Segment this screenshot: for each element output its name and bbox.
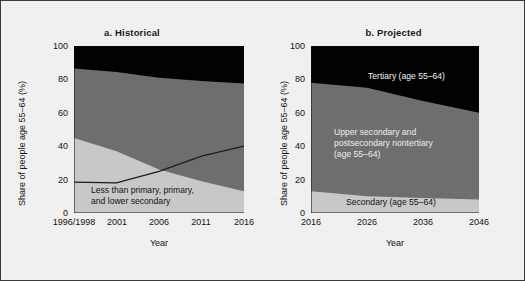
panel-b-x-axis-title: Year	[311, 238, 479, 248]
annotation-line-1: Less than primary, primary,	[91, 185, 194, 195]
panel-projected: b. Projected Share of people age 55–64 (…	[263, 1, 524, 281]
figure-container: a. Historical Share of people age 55–64 …	[0, 0, 525, 281]
panel-b-label-tertiary: Tertiary (age 55–64)	[368, 71, 445, 82]
panel-a-annotation-below-upper-secondary: Less than primary, primary, and lower se…	[91, 185, 194, 207]
panel-a-xtick-2: 2001	[97, 217, 137, 227]
annotation-line-2: and lower secondary	[91, 196, 170, 206]
panel-a-xtick-4: 2011	[181, 217, 221, 227]
panel-historical: a. Historical Share of people age 55–64 …	[1, 1, 263, 281]
panel-b-xtick-1: 2016	[291, 217, 331, 227]
panel-a-ytick-100: 100	[42, 41, 68, 51]
panel-b-ytick-20: 20	[279, 175, 305, 185]
upper-secondary-line-2: postsecondary nontertiary	[334, 138, 433, 148]
panel-a-y-axis-label: Share of people age 55–64 (%)	[17, 81, 27, 206]
upper-secondary-line-3: (age 55–64)	[334, 149, 380, 159]
panel-a-xtick-5: 2016	[224, 217, 264, 227]
panel-a-ytick-40: 40	[42, 141, 68, 151]
panel-b-label-secondary: Secondary (age 55–64)	[346, 197, 436, 208]
panel-b-ytick-100: 100	[279, 41, 305, 51]
panel-b-xtick-3: 2036	[403, 217, 443, 227]
panel-a-ytick-60: 60	[42, 108, 68, 118]
panel-a-title: a. Historical	[1, 27, 263, 38]
panel-a-ytick-20: 20	[42, 175, 68, 185]
panel-a-ytick-80: 80	[42, 74, 68, 84]
panel-b-title: b. Projected	[263, 27, 524, 38]
panel-a-xtick-3: 2006	[139, 217, 179, 227]
panel-a-xtick-1: 1996/1998	[43, 217, 105, 227]
upper-secondary-line-1: Upper secondary and	[334, 127, 416, 137]
panel-b-ytick-60: 60	[279, 108, 305, 118]
panel-a-x-axis-title: Year	[74, 238, 244, 248]
panel-b-ytick-40: 40	[279, 141, 305, 151]
panel-b-label-upper-secondary: Upper secondary and postsecondary nonter…	[334, 127, 433, 160]
panel-b-xtick-4: 2046	[459, 217, 499, 227]
panel-b-ytick-80: 80	[279, 74, 305, 84]
panel-b-xtick-2: 2026	[347, 217, 387, 227]
